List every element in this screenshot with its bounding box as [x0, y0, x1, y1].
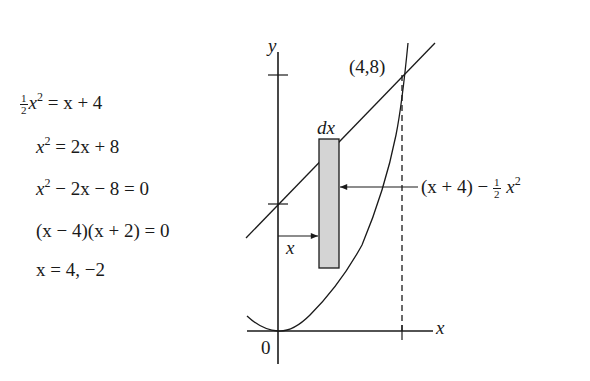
y-axis-label: y: [268, 36, 276, 55]
x-axis-label: x: [436, 318, 444, 337]
line-curve: [246, 43, 435, 238]
height-label: (x + 4) − 12 x2: [421, 177, 521, 200]
fraction-one-half: 12: [493, 177, 501, 200]
origin-label: 0: [261, 338, 271, 357]
dx-label: dx: [317, 118, 335, 137]
area-strip: [319, 139, 339, 268]
intersection-label: (4,8): [349, 57, 385, 76]
x-position-label: x: [286, 238, 294, 257]
